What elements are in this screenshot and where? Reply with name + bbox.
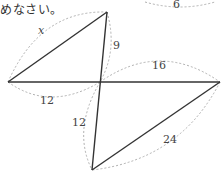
label-12-oc: 12 xyxy=(72,116,86,129)
segment-ab xyxy=(8,12,107,82)
geometry-diagram: x 9 12 16 12 24 6 xyxy=(0,0,222,172)
segment-bc xyxy=(92,12,107,170)
label-x: x xyxy=(38,24,45,37)
arc-top xyxy=(145,2,215,7)
segment-dc xyxy=(92,82,220,170)
label-12-ao: 12 xyxy=(40,94,54,107)
label-24: 24 xyxy=(163,133,177,146)
label-6: 6 xyxy=(173,0,180,11)
label-16: 16 xyxy=(152,59,166,72)
label-9: 9 xyxy=(113,39,120,52)
arc-ao xyxy=(8,82,100,97)
arc-oc xyxy=(84,82,100,170)
